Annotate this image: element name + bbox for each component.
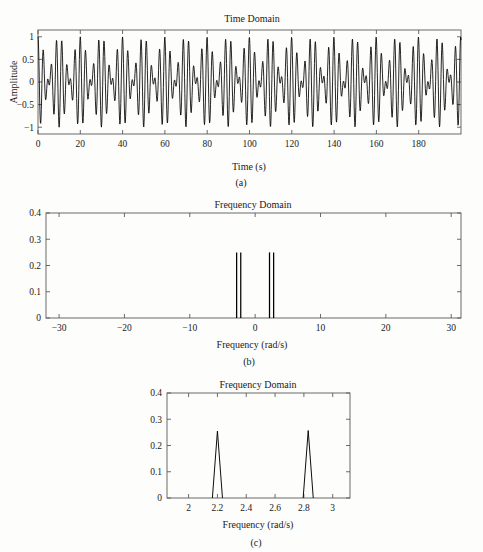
chart-b-plot-area: −30−20−100102030 00.10.20.30.4 <box>29 208 461 333</box>
xtick-label: 40 <box>118 139 128 149</box>
panel-frequency-domain-zoom: Frequency Domain 22.22.42.62.83 00.10.20… <box>0 370 483 552</box>
xtick-label: 20 <box>381 323 391 333</box>
xtick-label: 2.4 <box>240 503 252 513</box>
panel-frequency-domain-full: Frequency Domain −30−20−100102030 00.10.… <box>0 190 483 370</box>
chart-c-yticks: 00.10.20.30.4 <box>150 388 350 503</box>
ytick-label: 0 <box>29 77 34 87</box>
ytick-label: 0 <box>157 493 162 503</box>
ytick-label: 0.3 <box>29 235 41 245</box>
chart-b-caption: (b) <box>243 356 255 368</box>
xtick-label: 3 <box>330 503 335 513</box>
chart-b-svg: Frequency Domain −30−20−100102030 00.10.… <box>0 190 483 370</box>
ytick-label: 0.4 <box>150 388 162 398</box>
ytick-label: 0.1 <box>29 287 41 297</box>
xtick-label: 10 <box>316 323 326 333</box>
chart-a-plot-area: 020406080100120140160180 −1−0.500.51 <box>17 30 461 149</box>
figure-root: Time Domain 020406080100120140160180 −1−… <box>0 0 483 552</box>
chart-c-svg: Frequency Domain 22.22.42.62.83 00.10.20… <box>0 370 483 552</box>
ytick-label: 0.3 <box>150 415 162 425</box>
chart-c-plot-area: 22.22.42.62.83 00.10.20.30.4 <box>150 388 350 513</box>
chart-a-ylabel: Amplitude <box>8 60 19 103</box>
chart-b-frame <box>46 213 461 318</box>
chart-b-title: Frequency Domain <box>215 199 292 210</box>
ytick-label: 0.5 <box>22 55 34 65</box>
ytick-label: 1 <box>29 32 34 42</box>
xtick-label: 140 <box>327 139 342 149</box>
chart-c-xlabel: Frequency (rad/s) <box>223 519 294 531</box>
xtick-label: 100 <box>242 139 257 149</box>
xtick-label: 180 <box>412 139 427 149</box>
chart-c-frame <box>167 393 350 498</box>
xtick-label: 120 <box>285 139 300 149</box>
ytick-label: 0.2 <box>150 441 162 451</box>
xtick-label: 2.6 <box>269 503 281 513</box>
xtick-label: −10 <box>182 323 197 333</box>
xtick-label: 160 <box>369 139 384 149</box>
xtick-label: 60 <box>160 139 170 149</box>
chart-b-xticks: −30−20−100102030 <box>52 213 457 333</box>
spectral-peak <box>303 431 313 498</box>
panel-time-domain: Time Domain 020406080100120140160180 −1−… <box>0 0 483 190</box>
xtick-label: −30 <box>52 323 67 333</box>
ytick-label: 0 <box>36 313 41 323</box>
xtick-label: 0 <box>36 139 41 149</box>
chart-a-title: Time Domain <box>224 13 279 24</box>
xtick-label: 30 <box>446 323 456 333</box>
chart-a-caption: (a) <box>235 177 246 189</box>
chart-a-svg: Time Domain 020406080100120140160180 −1−… <box>0 0 483 190</box>
chart-c-title: Frequency Domain <box>220 379 297 390</box>
chart-a-waveform <box>38 37 461 127</box>
xtick-label: 80 <box>202 139 212 149</box>
xtick-label: 0 <box>253 323 258 333</box>
chart-b-yticks: 00.10.20.30.4 <box>29 208 461 323</box>
chart-c-caption: (c) <box>250 537 261 549</box>
xtick-label: 2.8 <box>298 503 310 513</box>
ytick-label: −0.5 <box>17 100 34 110</box>
spectral-peak <box>212 431 222 498</box>
xtick-label: −20 <box>117 323 132 333</box>
ytick-label: −1 <box>24 123 34 133</box>
ytick-label: 0.2 <box>29 261 41 271</box>
chart-b-xlabel: Frequency (rad/s) <box>217 339 288 351</box>
ytick-label: 0.1 <box>150 467 162 477</box>
chart-c-spectral-peaks <box>212 431 313 498</box>
ytick-label: 0.4 <box>29 208 41 218</box>
xtick-label: 2.2 <box>211 503 223 513</box>
chart-a-xlabel: Time (s) <box>232 161 266 173</box>
xtick-label: 20 <box>76 139 86 149</box>
chart-b-spectral-lines <box>237 252 274 318</box>
xtick-label: 2 <box>186 503 191 513</box>
